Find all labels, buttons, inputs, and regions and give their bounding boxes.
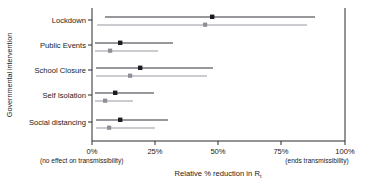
forest-plot-chart: Lockdown Public Events School Closure Se…: [0, 0, 390, 182]
datapoint-group-public-events: [95, 41, 173, 53]
x-axis-title-main: Relative % reduction in R: [175, 169, 261, 178]
estimate-point-lockdown-light: [203, 23, 207, 27]
estimate-point-school-closure-dark: [138, 66, 142, 70]
estimate-point-public-events-dark: [118, 41, 122, 45]
x-axis-left-note: (no effect on transmissibility): [40, 157, 123, 165]
estimate-point-lockdown-dark: [210, 15, 214, 19]
x-tick-label-0: 0%: [87, 147, 98, 156]
estimate-point-social-distancing-light: [107, 126, 111, 130]
category-label-school-closure: School Closure: [35, 66, 87, 75]
x-tick-label-100: 100%: [335, 147, 355, 156]
x-axis-right-note: (ends transmissibility): [285, 157, 348, 165]
x-tick-label-75: 75%: [273, 147, 288, 156]
estimate-point-self-isolation-dark: [113, 91, 117, 95]
estimate-point-social-distancing-dark: [118, 118, 122, 122]
datapoint-group-lockdown: [97, 15, 315, 27]
estimate-point-public-events-light: [108, 49, 112, 53]
x-tick-label-25: 25%: [147, 147, 162, 156]
datapoint-group-social-distancing: [96, 118, 168, 130]
x-axis-title-subscript: t: [260, 173, 262, 179]
y-axis-title: Governmental intervention: [5, 33, 14, 117]
x-axis-title: Relative % reduction in Rt: [175, 169, 262, 179]
category-label-lockdown: Lockdown: [52, 16, 86, 25]
category-label-self-isolation: Self Isolation: [43, 91, 86, 100]
x-tick-label-50: 50%: [210, 147, 225, 156]
category-label-social-distancing: Social distancing: [29, 118, 86, 127]
chart-canvas: Lockdown Public Events School Closure Se…: [0, 0, 390, 182]
estimate-point-self-isolation-light: [103, 99, 107, 103]
svg-text:Relative % reduction in Rt: Relative % reduction in Rt: [175, 169, 262, 179]
estimate-point-school-closure-light: [128, 74, 132, 78]
datapoint-group-self-isolation: [95, 91, 154, 103]
category-label-public-events: Public Events: [40, 41, 86, 50]
datapoint-group-school-closure: [96, 66, 213, 78]
